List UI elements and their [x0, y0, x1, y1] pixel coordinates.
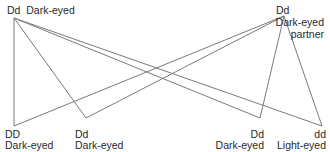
offspring-3-phenotype: Dark-eyed: [216, 139, 264, 151]
offspring-1-phenotype: Dark-eyed: [5, 139, 53, 151]
parent-left-label: Dd Dark-eyed: [7, 4, 75, 16]
offspring-4-phenotype: Light-eyed: [277, 139, 326, 151]
parent-left-phenotype: Dark-eyed: [26, 4, 74, 16]
offspring-2-phenotype: Dark-eyed: [75, 139, 123, 151]
parent-right-phenotype: Dark-eyed: [276, 16, 324, 28]
parent-right-note: partner: [291, 28, 324, 40]
parent-left-genotype: Dd: [7, 4, 20, 16]
parent-right-genotype: Dd: [276, 4, 289, 16]
